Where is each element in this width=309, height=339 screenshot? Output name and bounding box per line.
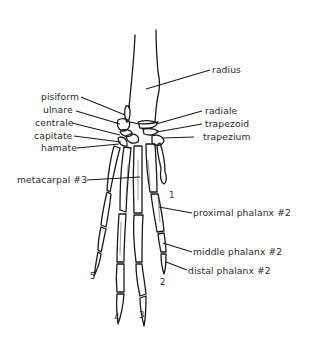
middle-phalanx-5 xyxy=(98,227,106,252)
label-trapezoid: trapezoid xyxy=(205,119,249,128)
middle-phalanx-2 xyxy=(158,233,166,252)
label-middle-phalanx-2: middle phalanx #2 xyxy=(193,247,282,256)
label-ulnare: ulnare xyxy=(43,105,73,114)
label-radius: radius xyxy=(212,65,241,74)
middle-phalanx-3 xyxy=(136,264,146,296)
label-distal-phalanx-2: distal phalanx #2 xyxy=(188,266,271,275)
metacarpal-3 xyxy=(133,146,142,213)
distal-phalanx-2 xyxy=(161,254,166,274)
hand-skeleton-diagram: pisiform ulnare centrale capitate hamate… xyxy=(0,0,309,339)
metacarpal-5 xyxy=(107,146,120,192)
leader-radiale xyxy=(156,111,202,124)
leader-distal-phalanx-2 xyxy=(166,262,187,270)
label-metacarpal-3: metacarpal #3 xyxy=(17,175,87,184)
digit-number-4: 4 xyxy=(114,313,119,322)
label-capitate: capitate xyxy=(34,131,72,140)
label-proximal-phalanx-2: proximal phalanx #2 xyxy=(193,208,291,217)
leader-trapezium xyxy=(162,137,194,138)
proximal-phalanx-3 xyxy=(134,215,143,262)
leader-lines xyxy=(72,70,210,270)
bone-drawing xyxy=(0,0,309,339)
proximal-phalanx-4 xyxy=(117,214,126,262)
leader-pisiform xyxy=(81,97,125,115)
radius-bone xyxy=(129,35,135,108)
ulnare-bone xyxy=(117,119,129,131)
leader-trapezoid xyxy=(157,124,202,132)
leader-middle-phalanx-2 xyxy=(163,243,192,252)
metacarpal-4 xyxy=(120,147,131,212)
label-hamate: hamate xyxy=(41,143,77,152)
digit-number-2: 2 xyxy=(160,278,165,287)
trapezoid-bone xyxy=(143,129,158,135)
label-radiale: radiale xyxy=(205,106,237,115)
proximal-phalanx-2 xyxy=(151,194,164,232)
leader-hamate xyxy=(77,144,119,148)
label-trapezium: trapezium xyxy=(203,132,251,141)
leader-centrale xyxy=(72,123,120,135)
metacarpal-2 xyxy=(146,144,157,192)
metacarpal-1 xyxy=(157,143,166,184)
middle-phalanx-4 xyxy=(116,264,124,292)
leader-radius xyxy=(146,70,210,89)
leader-ulnare xyxy=(76,111,120,124)
digit-number-5: 5 xyxy=(90,272,95,281)
digit-number-1: 1 xyxy=(169,191,174,200)
digit-number-3: 3 xyxy=(139,311,144,320)
leader-capitate xyxy=(74,136,121,142)
leader-proximal-phalanx-2 xyxy=(159,207,192,213)
proximal-phalanx-5 xyxy=(101,192,111,227)
label-pisiform: pisiform xyxy=(41,92,79,101)
label-centrale: centrale xyxy=(35,118,74,127)
